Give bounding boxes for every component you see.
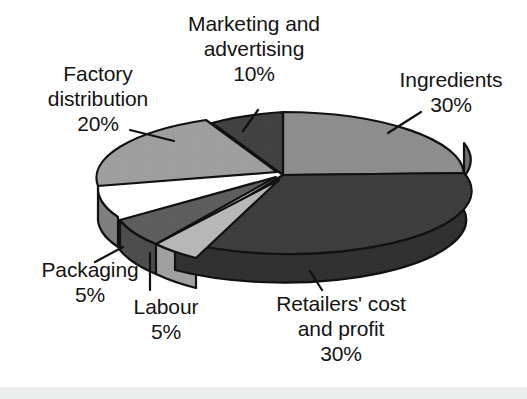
slice-label-line-2: distribution <box>18 87 178 112</box>
slice-top-ingredients <box>283 112 464 175</box>
slice-label-percent: 30% <box>246 342 436 367</box>
slice-label-percent: 20% <box>18 112 178 137</box>
slice-label-line-1: Ingredients <box>380 68 522 93</box>
slice-label-line-1: Labour <box>110 295 222 320</box>
slice-label-line-1: Packaging <box>16 258 164 283</box>
pie-chart-figure: Marketing and advertising 10% Ingredient… <box>0 0 527 399</box>
slice-label-line-1: Factory <box>18 62 178 87</box>
slice-label-line-2: and profit <box>246 317 436 342</box>
slice-label-retailers-cost-and-profit: Retailers' cost and profit 30% <box>246 292 436 366</box>
slice-label-percent: 10% <box>166 62 342 87</box>
slice-label-line-1: Marketing and <box>166 12 342 37</box>
slice-label-percent: 5% <box>110 320 222 345</box>
slice-label-percent: 30% <box>380 93 522 118</box>
slice-label-line-2: advertising <box>166 37 342 62</box>
slice-label-ingredients: Ingredients 30% <box>380 68 522 118</box>
slice-label-labour: Labour 5% <box>110 295 222 345</box>
slice-label-marketing-and-advertising: Marketing and advertising 10% <box>166 12 342 86</box>
bottom-strip <box>0 387 527 399</box>
slice-side-factory-distribution <box>98 186 118 247</box>
slice-label-line-1: Retailers' cost <box>246 292 436 317</box>
slice-label-factory-distribution: Factory distribution 20% <box>18 62 178 136</box>
